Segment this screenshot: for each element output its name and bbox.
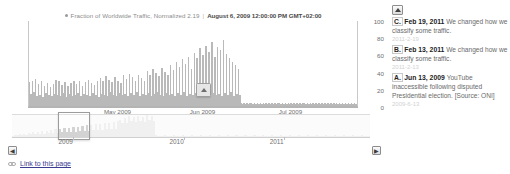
annotation-date: Feb 13, 2011 bbox=[404, 46, 446, 53]
navigator-x-axis-tick: 2010 bbox=[170, 138, 184, 145]
chart-bar bbox=[357, 103, 358, 106]
annotation-key: A. bbox=[392, 73, 403, 82]
flag-triangle-icon bbox=[201, 88, 207, 92]
range-navigator[interactable]: 200920102011 bbox=[12, 114, 370, 145]
chart-annotation-marker-a[interactable] bbox=[196, 83, 211, 97]
traffic-chart-widget: Fraction of Worldwide Traffic, Normalize… bbox=[0, 0, 510, 174]
y-axis-tick: 80 bbox=[377, 35, 384, 42]
link-icon bbox=[8, 161, 17, 167]
annotation-scroll-up-button[interactable] bbox=[392, 5, 403, 15]
annotation-item[interactable]: A.Jun 13, 2009 YouTube inaccessible foll… bbox=[392, 73, 508, 108]
scroll-left-button[interactable]: ◀ bbox=[8, 146, 17, 155]
legend-dot-icon bbox=[65, 14, 68, 17]
annotation-list: C.Feb 19, 2011 We changed how we classif… bbox=[392, 17, 508, 167]
chart-panel: Fraction of Worldwide Traffic, Normalize… bbox=[0, 0, 388, 174]
annotation-date: Jun 13, 2009 bbox=[404, 74, 446, 81]
annotation-panel: C.Feb 19, 2011 We changed how we classif… bbox=[390, 0, 510, 174]
link-to-this-page-link[interactable]: Link to this page bbox=[20, 160, 71, 167]
annotation-timestamp: 2009-6-13 bbox=[392, 101, 508, 108]
annotation-date: Feb 19, 2011 bbox=[404, 18, 446, 25]
legend-series-label: Fraction of Worldwide Traffic, Normalize… bbox=[71, 12, 200, 19]
chart-plot-area[interactable] bbox=[28, 21, 358, 107]
annotation-body: B.Feb 13, 2011 We changed how we classif… bbox=[392, 45, 508, 63]
navigator-selection-window[interactable] bbox=[58, 112, 90, 140]
legend-timestamp: August 6, 2009 12:00:00 PM GMT+02:00 bbox=[207, 12, 321, 19]
annotation-body: C.Feb 19, 2011 We changed how we classif… bbox=[392, 17, 508, 35]
annotation-timestamp: 2011-2-19 bbox=[392, 36, 508, 43]
y-axis-tick: 100 bbox=[374, 18, 384, 25]
y-axis-tick: 20 bbox=[377, 87, 384, 94]
chart-series-bars bbox=[29, 21, 357, 106]
navigator-x-axis-tick: 2009 bbox=[59, 138, 73, 145]
annotation-body: A.Jun 13, 2009 YouTube inaccessible foll… bbox=[392, 73, 508, 101]
annotation-item[interactable]: B.Feb 13, 2011 We changed how we classif… bbox=[392, 45, 508, 71]
y-axis-tick: 60 bbox=[377, 52, 384, 59]
chart-y-axis: 100806040200 bbox=[359, 16, 385, 111]
link-to-page-row[interactable]: Link to this page bbox=[8, 160, 71, 167]
legend-separator: | bbox=[203, 12, 205, 19]
navigator-x-axis-tick: 2011 bbox=[270, 138, 284, 145]
scroll-right-button[interactable]: ▶ bbox=[372, 146, 381, 155]
navigator-mask-left bbox=[12, 115, 58, 138]
chevron-left-icon: ◀ bbox=[10, 148, 15, 154]
annotation-key: C. bbox=[392, 17, 403, 26]
annotation-timestamp: 2011-2-13 bbox=[392, 64, 508, 71]
chevron-right-icon: ▶ bbox=[374, 148, 379, 154]
chevron-up-icon bbox=[395, 8, 401, 12]
chart-legend: Fraction of Worldwide Traffic, Normalize… bbox=[28, 9, 358, 21]
y-axis-tick: 0 bbox=[381, 104, 384, 111]
y-axis-tick: 40 bbox=[377, 70, 384, 77]
annotation-key: B. bbox=[392, 45, 403, 54]
navigator-mask-right bbox=[90, 115, 370, 138]
navigator-x-axis: 200920102011 bbox=[12, 138, 370, 148]
annotation-item[interactable]: C.Feb 19, 2011 We changed how we classif… bbox=[392, 17, 508, 43]
